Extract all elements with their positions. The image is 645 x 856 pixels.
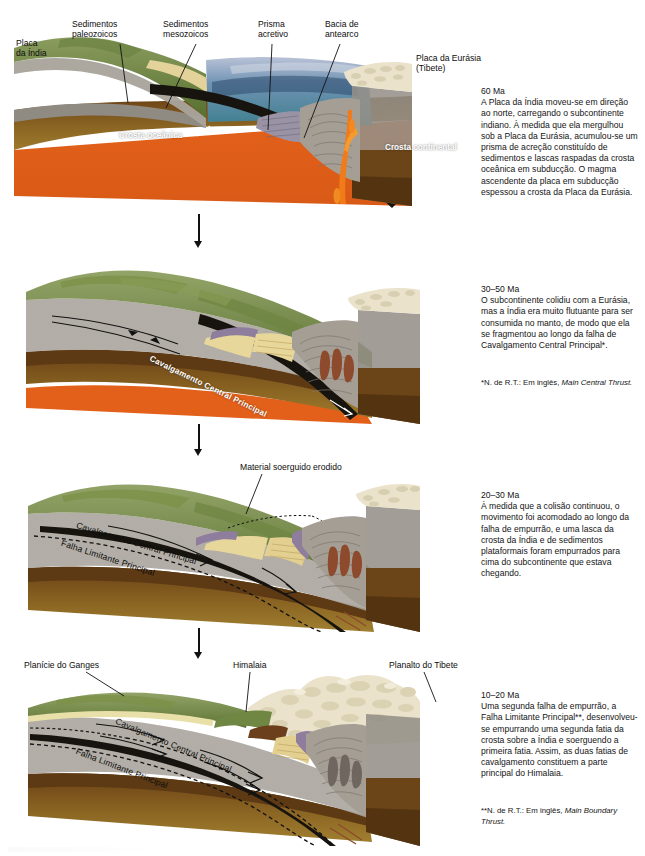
stage-arrow-1 bbox=[192, 214, 206, 248]
label-sedimentos-mesozoicos: Sedimentos mesozoicos bbox=[163, 19, 208, 40]
label-crosta-continental: Crosta continental bbox=[385, 143, 457, 153]
stage-body-60ma: A Placa da Índia moveu-se em direção ao … bbox=[481, 97, 638, 197]
cross-section-art-10-20ma bbox=[0, 656, 420, 846]
label-placa-da-india: Placa da Índia bbox=[16, 38, 47, 59]
stage-text-60ma: 60 Ma A Placa da Índia moveu-se em direç… bbox=[481, 86, 639, 198]
label-planicie-do-ganges: Planície do Ganges bbox=[24, 660, 99, 670]
note-plain: **N. de R.T.: Em inglês, bbox=[481, 806, 565, 815]
stage-panel-60ma: Placa da Índia Sedimentos paleozoicos Se… bbox=[0, 0, 645, 215]
stage-panel-20-30ma: Material soerguido erodido Cavalgamento … bbox=[0, 456, 645, 632]
stage-age-60ma: 60 Ma bbox=[481, 86, 639, 97]
stage-panel-10-20ma: Planície do Ganges Himalaia Planalto do … bbox=[0, 656, 645, 846]
label-prisma-acretivo: Prisma acretivo bbox=[258, 19, 288, 40]
stage-text-10-20ma: 10–20 Ma Uma segunda falha de empurrão, … bbox=[481, 690, 639, 780]
stage-arrow-2 bbox=[192, 424, 206, 456]
label-planalto-do-tibete: Planalto do Tibete bbox=[389, 660, 458, 670]
stage-body-10-20ma: Uma segunda falha de empurrão, a Falha L… bbox=[481, 701, 638, 778]
stage-age-20-30ma: 20–30 Ma bbox=[481, 490, 639, 501]
stage-text-20-30ma: 20–30 Ma À medida que a colisão continuo… bbox=[481, 490, 639, 580]
label-himalaia: Himalaia bbox=[233, 660, 266, 670]
stage-age-10-20ma: 10–20 Ma bbox=[481, 690, 639, 701]
note-italic: Main Central Thrust. bbox=[562, 378, 633, 387]
label-bacia-de-antearco: Bacia de antearco bbox=[325, 19, 358, 40]
stage-note-30-50ma: *N. de R.T.: Em inglês, Main Central Thr… bbox=[481, 378, 639, 389]
stage-age-30-50ma: 30–50 Ma bbox=[481, 284, 639, 295]
label-material-soerguido-erodido: Material soerguido erodido bbox=[240, 462, 342, 472]
label-placa-da-eurasia: Placa da Eurásia (Tibete) bbox=[416, 53, 481, 74]
stage-panel-30-50ma: Cavalgamento Central Principal 30–50 Ma … bbox=[0, 248, 645, 424]
stage-text-30-50ma: 30–50 Ma O subcontinente colidiu com a E… bbox=[481, 284, 639, 351]
label-sedimentos-paleozoicos: Sedimentos paleozoicos bbox=[72, 19, 117, 40]
stage-body-20-30ma: À medida que a colisão continuou, o movi… bbox=[481, 501, 629, 578]
stage-body-30-50ma: O subcontinente colidiu com a Eurásia, m… bbox=[481, 295, 633, 350]
cross-section-art-30-50ma bbox=[0, 248, 420, 424]
bottom-rule bbox=[8, 847, 158, 852]
label-crosta-oceanica: Crosta oceânica bbox=[119, 131, 182, 141]
note-plain: *N. de R.T.: Em inglês, bbox=[481, 378, 562, 387]
stage-note-10-20ma: **N. de R.T.: Em inglês, Main Boundary T… bbox=[481, 806, 639, 827]
